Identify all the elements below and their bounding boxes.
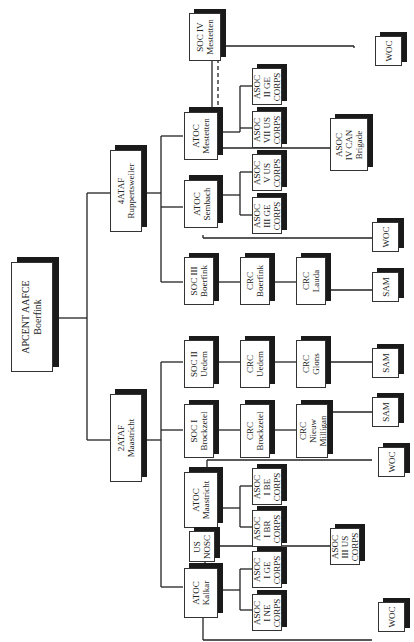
node-apcent-aafce: APCENT AAFCEBoerfink [11, 262, 59, 372]
org-chart: APCENT AAFCEBoerfink 4ATAFRuppertsweiler… [0, 0, 414, 642]
